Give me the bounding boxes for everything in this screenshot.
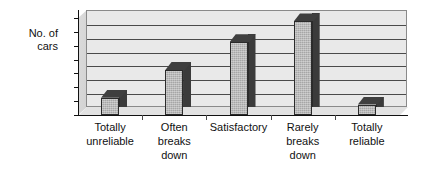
bar-side-face [248,34,256,107]
bar [294,21,312,115]
x-axis-label: Totallyunreliable [78,120,142,148]
x-axis-label: Totallyreliable [335,120,399,148]
y-axis-title-line-1: No. of [4,27,58,40]
gridline [87,25,406,26]
x-axis-label-line: Often [142,120,206,134]
bar [230,42,248,115]
y-axis-tick [74,60,79,61]
x-axis-label-line: breaks [142,134,206,148]
y-axis-tick [74,32,79,33]
y-axis-line [78,10,79,116]
x-axis-label-line: Totally [335,120,399,134]
bar-front-face [165,70,183,115]
x-axis-label: Satisfactory [206,120,270,134]
bar-chart: No. of cars 02468101214 Totallyunreliabl… [0,0,425,172]
x-axis-label-line: Rarely [271,120,335,134]
y-axis-tick [74,87,79,88]
x-axis-label-line: down [142,148,206,162]
y-axis-tick [74,46,79,47]
bar-side-face [312,13,320,107]
x-axis-label: Rarelybreaksdown [271,120,335,162]
bar [165,70,183,115]
x-axis-label: Oftenbreaksdown [142,120,206,162]
y-axis-tick [74,73,79,74]
x-axis-label-line: down [271,148,335,162]
y-axis-title-line-2: cars [4,40,58,53]
x-axis-line [78,115,408,116]
bar-front-face [230,42,248,115]
y-axis-tick [74,18,79,19]
bar [358,105,376,115]
bar-front-face [294,21,312,115]
x-axis-label-line: breaks [271,134,335,148]
y-axis-tick [74,101,79,102]
y-axis-tick [74,115,79,116]
x-axis-labels: TotallyunreliableOftenbreaksdownSatisfac… [78,120,408,172]
y-axis-title: No. of cars [4,27,58,53]
x-axis-label-line: Totally [78,120,142,134]
x-axis-label-line: reliable [335,134,399,148]
bar [101,98,119,115]
x-axis-label-line: unreliable [78,134,142,148]
bar-front-face [101,98,119,115]
plot-area: 02468101214 [78,2,418,120]
x-axis-label-line: Satisfactory [206,120,270,134]
bar-front-face [358,105,376,115]
